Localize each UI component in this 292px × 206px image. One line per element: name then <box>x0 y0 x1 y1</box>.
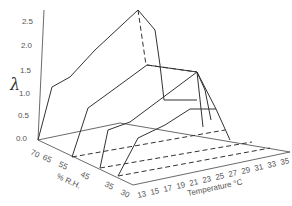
lambda-axis-label: λ <box>9 75 20 94</box>
svg-text:29: 29 <box>241 165 252 176</box>
svg-text:15: 15 <box>150 186 161 197</box>
svg-text:45: 45 <box>79 170 91 182</box>
svg-text:27: 27 <box>228 168 239 179</box>
svg-text:70: 70 <box>29 148 41 160</box>
svg-text:1.5: 1.5 <box>20 66 32 75</box>
svg-text:31: 31 <box>254 162 265 173</box>
svg-text:19: 19 <box>176 180 187 191</box>
svg-text:35: 35 <box>103 180 115 192</box>
temp-axis <box>133 152 290 185</box>
rh-axis-label: % R.H. <box>55 172 82 191</box>
svg-text:55: 55 <box>57 160 69 172</box>
svg-text:33: 33 <box>267 159 278 170</box>
svg-text:0.0: 0.0 <box>16 134 28 143</box>
svg-text:17: 17 <box>163 183 174 194</box>
svg-text:0.5: 0.5 <box>18 111 30 120</box>
curve-55 <box>72 65 197 157</box>
svg-text:2.0: 2.0 <box>21 41 33 50</box>
svg-text:1.0: 1.0 <box>19 89 31 98</box>
svg-text:65: 65 <box>41 153 53 165</box>
svg-text:35: 35 <box>280 156 291 167</box>
chart-3d: 0.0 0.5 1.0 1.5 2.0 2.5 λ 70 65 55 45 35… <box>0 0 292 206</box>
curve-70 <box>38 10 164 140</box>
temp-ticks: 13 15 17 19 21 23 25 27 29 31 33 35 <box>137 156 291 200</box>
svg-text:30: 30 <box>119 188 131 200</box>
svg-text:2.5: 2.5 <box>22 17 34 26</box>
curve-45 <box>100 72 211 168</box>
svg-text:13: 13 <box>137 189 148 200</box>
